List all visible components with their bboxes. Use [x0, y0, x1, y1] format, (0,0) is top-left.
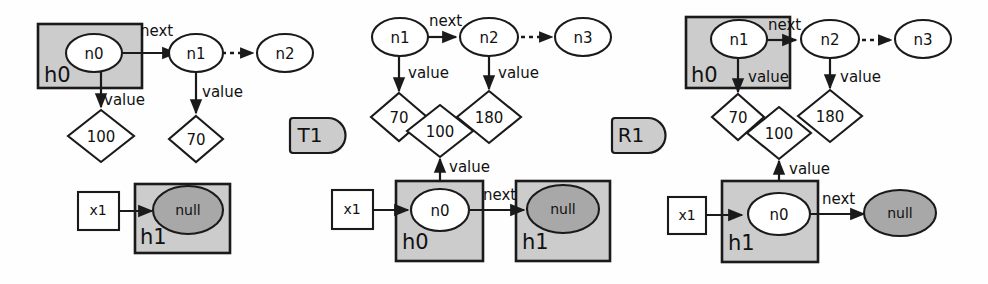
edge-label-r-next-n0: next — [822, 190, 855, 208]
edge-label-r-value-n0: value — [789, 160, 830, 178]
edge-label-r-next-n1: next — [768, 16, 801, 34]
node-label-n1: n1 — [186, 45, 205, 63]
value-label-70: 70 — [186, 131, 205, 149]
diagram-canvas: h0 next n2 dashed --> n0 n1 n2 value val… — [0, 0, 988, 284]
node-label-n2: n2 — [275, 45, 294, 63]
state-badge-label-t1: T1 — [297, 123, 323, 147]
heap-label-r-h1: h1 — [728, 231, 755, 255]
heap-label-h0: h0 — [44, 63, 71, 87]
node-label-m-n1: n1 — [390, 29, 409, 47]
edge-label-r-value-n1: value — [748, 68, 789, 86]
node-label-r-n0: n0 — [769, 206, 788, 224]
node-label-r-n1: n1 — [729, 31, 748, 49]
panel-left: h0 next n2 dashed --> n0 n1 n2 value val… — [38, 22, 346, 254]
variable-label-x1: x1 — [89, 202, 106, 218]
variable-label-r-x1: x1 — [678, 207, 695, 223]
edge-label-m-value-n1: value — [408, 64, 449, 82]
edge-label-m-next-n0: next — [483, 186, 516, 204]
linked-list-heap-diagram: h0 next n2 dashed --> n0 n1 n2 value val… — [0, 0, 988, 284]
value-label-m-180: 180 — [475, 109, 504, 127]
value-label-100: 100 — [87, 128, 116, 146]
edge-label-next-n0: next — [140, 22, 173, 40]
edge-label-r-value-n2: value — [840, 68, 881, 86]
value-label-r-70: 70 — [728, 109, 747, 127]
state-badge-label-r1: R1 — [618, 123, 645, 147]
node-label-m-n0: n0 — [430, 202, 449, 220]
value-label-m-100: 100 — [426, 123, 455, 141]
edge-label-m-value-n0: value — [449, 158, 490, 176]
null-label: null — [175, 202, 201, 218]
node-label-m-n2: n2 — [479, 29, 498, 47]
edge-label-m-next-n1: next — [429, 12, 462, 30]
heap-label-m-h1: h1 — [522, 230, 549, 254]
edge-label-value-n1: value — [202, 83, 243, 101]
heap-label-h1: h1 — [140, 225, 167, 249]
heap-label-m-h0: h0 — [402, 230, 429, 254]
value-label-r-100: 100 — [765, 125, 794, 143]
panel-right: h0 next n3 --> n1 n2 n3 value value 70 1… — [668, 16, 951, 263]
edge-label-m-value-n2: value — [498, 64, 539, 82]
null-label-m: null — [550, 201, 576, 217]
value-label-r-180: 180 — [816, 108, 845, 126]
heap-label-r-h0: h0 — [691, 63, 718, 87]
variable-label-m-x1: x1 — [343, 201, 360, 217]
null-label-r: null — [887, 205, 913, 221]
node-label-n0: n0 — [84, 45, 103, 63]
node-label-r-n3: n3 — [913, 31, 932, 49]
node-label-m-n3: n3 — [573, 29, 592, 47]
edge-label-value-n0: value — [104, 91, 145, 109]
node-label-r-n2: n2 — [820, 31, 839, 49]
value-label-m-70: 70 — [389, 109, 408, 127]
panel-middle: next n3 --> n1 n2 n3 value value 70 100 … — [332, 12, 666, 262]
